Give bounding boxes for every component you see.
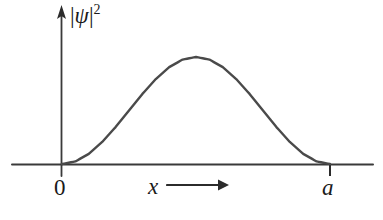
y-axis-label-exponent: 2	[94, 2, 101, 17]
x-axis-label: x	[148, 175, 158, 198]
y-axis-label: |ψ|2	[70, 3, 101, 27]
probability-density-curve	[62, 57, 330, 164]
right-arrow-icon	[166, 178, 230, 192]
origin-tick-label: 0	[54, 176, 66, 199]
y-axis-label-psi-symbol: ψ	[75, 3, 89, 28]
figure-container: |ψ|2 0 x a	[0, 0, 383, 220]
x-tick-label-a: a	[322, 176, 334, 199]
